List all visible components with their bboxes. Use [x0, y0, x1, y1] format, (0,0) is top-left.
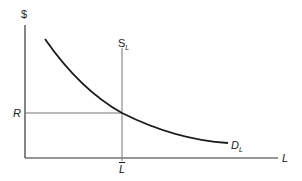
x-axis-label: L: [282, 153, 288, 164]
demand-label: DL: [231, 140, 243, 151]
demand-curve: [45, 39, 228, 143]
diagram-canvas: [0, 0, 302, 181]
y-axis-label: $: [21, 9, 27, 20]
wage-level-label: R: [13, 108, 21, 119]
supply-label: SL: [118, 38, 129, 49]
quantity-label: L: [119, 164, 125, 175]
